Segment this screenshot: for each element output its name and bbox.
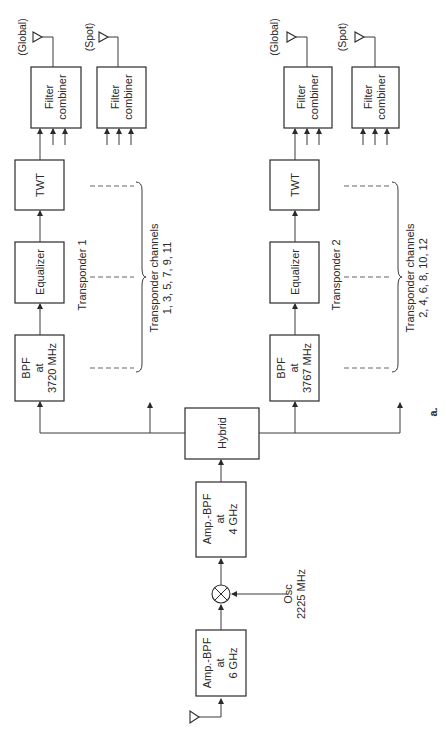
equalizer2-label: Equalizer <box>289 249 301 295</box>
transponder-1: BPF at 3720 MHz Equalizer TWT Filter <box>15 18 173 401</box>
gc2-line1: Filter <box>295 84 307 109</box>
amp-4ghz-line1: Amp.-BPF <box>201 493 213 544</box>
gc1-line1: Filter <box>43 84 55 109</box>
sc2-line2: combiner <box>375 74 387 120</box>
spot-antenna-1-icon <box>99 32 108 42</box>
bpf-3720-block: BPF at 3720 MHz <box>15 335 64 401</box>
bpf1-line2: at <box>33 363 45 372</box>
amp-4ghz-line3: 4 GHz <box>227 503 239 534</box>
twt1-label: TWT <box>34 173 46 197</box>
osc-line2: 2225 MHz <box>295 569 307 619</box>
sc1-line1: Filter <box>109 84 121 109</box>
global-combiner-2-block: Filter combiner <box>284 67 332 128</box>
sc1-line2: combiner <box>122 74 134 120</box>
twt-2-block: TWT <box>270 160 319 210</box>
bpf1-line1: BPF <box>20 357 32 379</box>
channels2-line1: Transponder channels <box>404 223 416 333</box>
amp-bpf-4ghz-block: Amp.-BPF at 4 GHz <box>196 482 246 557</box>
equalizer-1-block: Equalizer <box>15 242 64 303</box>
transponder2-label: Transponder 2 <box>330 239 342 310</box>
amp-6ghz-line1: Amp.-BPF <box>201 637 213 688</box>
bpf2-line3: 3767 MHz <box>301 343 313 393</box>
bpf1-line3: 3720 MHz <box>46 343 58 393</box>
global-antenna-2-icon <box>287 32 296 42</box>
amp-bpf-6ghz-block: Amp.-BPF at 6 GHz <box>196 630 246 696</box>
global-label-1: (Global) <box>16 18 28 55</box>
amp-6ghz-line3: 6 GHz <box>227 647 239 678</box>
channel-brace-1 <box>136 182 146 372</box>
osc-line1: Osc <box>282 584 294 604</box>
transponder1-label: Transponder 1 <box>76 239 88 310</box>
channels1-line1: Transponder channels <box>148 223 160 333</box>
input-antenna-icon <box>190 699 221 723</box>
channels2-line2: 2, 4, 6, 8, 10, 12 <box>417 238 429 318</box>
transponder-2: BPF at 3767 MHz Equalizer TWT Filter com… <box>268 18 429 401</box>
spot-antenna-2-icon <box>355 32 364 42</box>
global-antenna-1-icon <box>33 32 42 42</box>
sc2-line1: Filter <box>362 84 374 109</box>
amp-6ghz-line2: at <box>214 658 226 667</box>
global-label-2: (Global) <box>268 18 280 55</box>
bpf2-line2: at <box>288 363 300 372</box>
gc1-line2: combiner <box>56 74 68 120</box>
equalizer1-label: Equalizer <box>34 249 46 295</box>
spot-combiner-1-block: Filter combiner <box>97 67 146 128</box>
transponder-block-diagram: Amp.-BPF at 6 GHz Osc 2225 MHz Amp.-BPF … <box>0 0 446 731</box>
global-combiner-1-block: Filter combiner <box>31 67 81 128</box>
hybrid-label: Hybrid <box>216 417 228 449</box>
spot-combiner-2-block: Filter combiner <box>352 67 399 128</box>
equalizer-2-block: Equalizer <box>270 242 319 303</box>
bpf2-line1: BPF <box>275 357 287 379</box>
channel-brace-2 <box>392 182 402 372</box>
figure-label: a. <box>427 407 439 416</box>
spot-label-2: (Spot) <box>336 23 348 52</box>
mixer-icon <box>212 585 230 603</box>
twt-1-block: TWT <box>15 160 64 210</box>
oscillator-label: Osc 2225 MHz <box>282 569 307 619</box>
spot-label-1: (Spot) <box>83 23 95 52</box>
hybrid-block: Hybrid <box>185 408 259 459</box>
gc2-line2: combiner <box>308 74 320 120</box>
twt2-label: TWT <box>289 173 301 197</box>
channels1-line2: 1, 3, 5, 7, 9, 11 <box>161 242 173 315</box>
bpf-3767-block: BPF at 3767 MHz <box>270 335 319 401</box>
amp-4ghz-line2: at <box>214 514 226 523</box>
